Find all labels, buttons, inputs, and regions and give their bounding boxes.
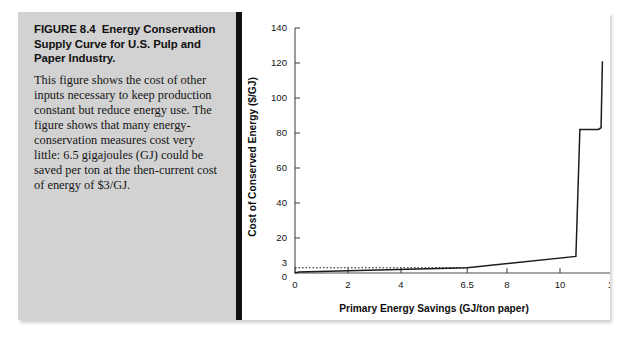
y-tick-label: 120 (271, 57, 287, 68)
figure-caption-panel: FIGURE 8.4 Energy Conservation Supply Cu… (18, 12, 236, 320)
y-tick-label: 20 (276, 232, 287, 243)
y-tick-label: 3 (282, 257, 287, 268)
x-tick-label: 12 (608, 279, 610, 290)
y-tick-label: 100 (271, 92, 287, 103)
y-tick-label: 60 (276, 162, 287, 173)
figure-box: FIGURE 8.4 Energy Conservation Supply Cu… (18, 12, 610, 320)
figure-title: FIGURE 8.4 Energy Conservation Supply Cu… (34, 22, 222, 66)
figure-caption-text: This figure shows the cost of other inpu… (34, 73, 222, 194)
chart-tick-marks (295, 28, 610, 273)
chart-series (295, 61, 602, 273)
y-tick-label: 0 (282, 271, 287, 282)
figure-label: FIGURE 8.4 (34, 23, 96, 35)
x-tick-label: 6.5 (461, 279, 474, 290)
y-tick-label: 80 (276, 127, 287, 138)
y-axis-tick-labels: 0320406080100120140 (271, 22, 287, 281)
y-tick-label: 40 (276, 197, 287, 208)
y-tick-label: 140 (271, 22, 287, 33)
x-axis-title: Primary Energy Savings (GJ/ton paper) (339, 303, 529, 314)
supply-curve-chart: 0246.581012 0320406080100120140 Primary … (242, 12, 610, 320)
x-tick-label: 0 (292, 279, 297, 290)
x-tick-label: 4 (398, 279, 404, 290)
x-tick-label: 10 (555, 279, 566, 290)
x-tick-label: 8 (504, 279, 509, 290)
supply-curve-line (295, 61, 602, 273)
x-axis-tick-labels: 0246.581012 (292, 279, 610, 290)
chart-panel: 0246.581012 0320406080100120140 Primary … (242, 12, 610, 320)
x-tick-label: 2 (345, 279, 350, 290)
y-axis-title: Cost of Conserved Energy ($/GJ) (247, 77, 258, 237)
chart-axes (295, 28, 610, 273)
